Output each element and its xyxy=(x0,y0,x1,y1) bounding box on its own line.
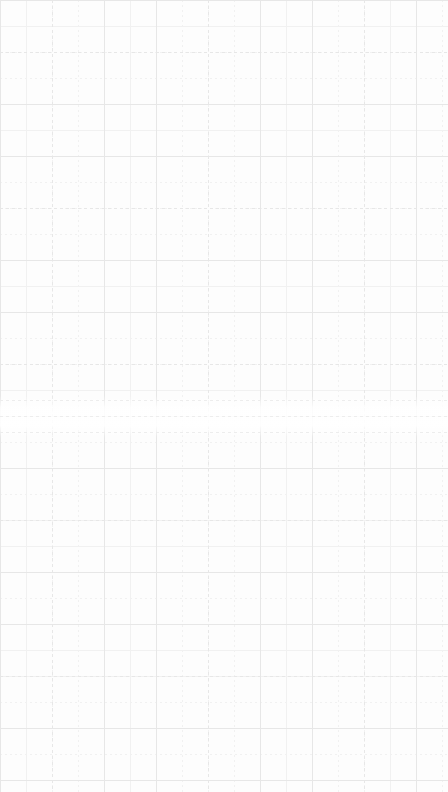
major-grid-lines xyxy=(0,0,448,792)
blank-grid-canvas[interactable] xyxy=(0,0,448,792)
